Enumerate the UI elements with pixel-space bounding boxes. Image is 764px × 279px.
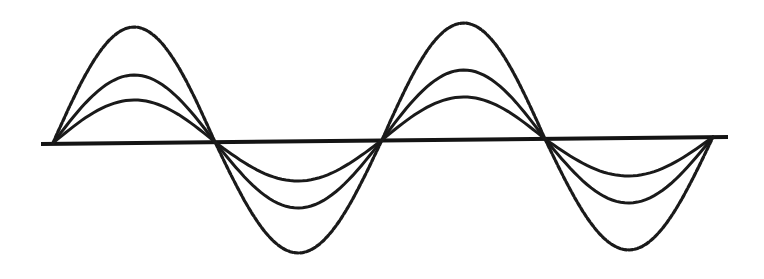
wave-canvas [0,0,764,279]
standing-wave-diagram [0,0,764,279]
